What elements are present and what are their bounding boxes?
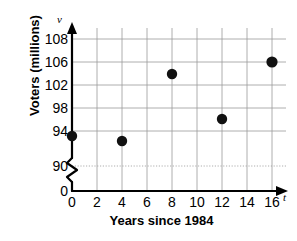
x-tick-labels: 0 2 4 6 8 10 12 14 16: [0, 0, 297, 241]
x-tick-label-6: 6: [135, 195, 159, 209]
x-tick-label-14: 14: [235, 195, 259, 209]
x-tick-label-8: 8: [160, 195, 184, 209]
scatter-plot-figure: 108 106 102 98 94 90 0 0 2 4 6 8 10 12 1…: [0, 0, 297, 241]
x-tick-label-2: 2: [85, 195, 109, 209]
x-axis-title: Years since 1984: [0, 213, 297, 228]
x-tick-label-0: 0: [60, 195, 84, 209]
y-axis-title: Voters (millions): [27, 0, 42, 146]
x-tick-label-4: 4: [110, 195, 134, 209]
x-tick-label-16: 16: [260, 195, 284, 209]
x-axis-variable-label: t: [283, 192, 286, 203]
y-axis-variable-label: v: [57, 14, 62, 25]
x-tick-label-12: 12: [210, 195, 234, 209]
x-tick-label-10: 10: [185, 195, 209, 209]
